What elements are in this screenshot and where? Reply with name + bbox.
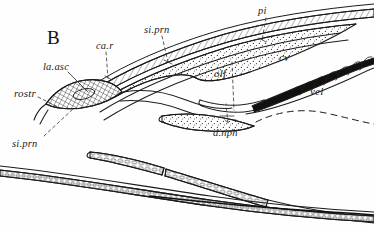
tick-ca-r xyxy=(105,76,112,80)
figure-panel: B ca.r si.prn pi cv la.asc olf vel rostr… xyxy=(0,0,374,226)
label-olf: olf xyxy=(214,68,226,79)
rostrum-band xyxy=(46,80,122,109)
leader-ca-r xyxy=(106,52,108,78)
label-vel: vel xyxy=(310,86,323,97)
label-la-asc: la.asc xyxy=(43,62,69,73)
nephridium-duct xyxy=(159,114,254,131)
label-si-prn-upper: si.prn xyxy=(144,25,169,36)
label-d-nph: d.nph xyxy=(213,128,238,139)
label-rostr: rostr xyxy=(14,88,36,99)
label-si-prn-lower: si.prn xyxy=(12,139,37,150)
leader-si-prn-lower xyxy=(44,108,74,136)
label-cv: cv xyxy=(279,52,289,63)
lower-band xyxy=(87,152,164,175)
label-ca-r: ca.r xyxy=(96,41,113,52)
label-pi: pi xyxy=(258,6,267,17)
bottom-band xyxy=(0,166,374,222)
panel-label: B xyxy=(47,28,60,47)
